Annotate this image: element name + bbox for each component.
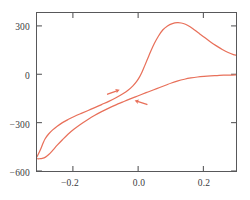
forward-scan-arrow-shaft — [108, 91, 117, 94]
forward-scan-arrow — [107, 88, 121, 97]
y-tick-label-0: 0 — [2, 71, 30, 81]
reverse-scan-arrow-shaft — [137, 101, 146, 104]
forward-scan-curve — [37, 23, 236, 157]
reverse-scan-arrow — [134, 98, 148, 106]
x-tick-label-minus-0.2: −0.2 — [61, 178, 79, 188]
voltammogram-curves-group — [37, 23, 236, 159]
x-tick-label-0.0: 0.0 — [133, 178, 145, 188]
axis-ticks-group — [37, 13, 236, 171]
x-tick-label-0.2: 0.2 — [198, 178, 210, 188]
reverse-scan-curve — [37, 75, 236, 159]
y-tick-label-300: 300 — [2, 22, 30, 32]
y-tick-label-minus-600: −600 — [2, 168, 30, 178]
plot-area — [36, 12, 237, 172]
cyclic-voltammogram-figure: 300 0 −300 −600 −0.2 0.0 0.2 I/µA E/V — [0, 0, 250, 200]
plot-canvas — [37, 13, 236, 171]
y-tick-label-minus-300: −300 — [2, 120, 30, 130]
